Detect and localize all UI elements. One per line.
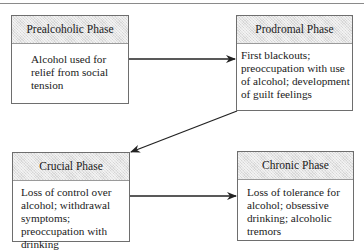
phase-description: First blackouts; preoccupation with use … bbox=[237, 44, 352, 101]
phase-title: Prodromal Phase bbox=[237, 16, 352, 44]
phase-description: Loss of tolerance for alcohol; obsessive… bbox=[238, 180, 353, 238]
phase-description: Loss of control over alcohol; withdrawal… bbox=[13, 181, 129, 250]
phase-title: Crucial Phase bbox=[13, 153, 129, 181]
top-rule bbox=[0, 3, 364, 4]
prealcoholic-phase-box: Prealcoholic Phase Alcohol used for reli… bbox=[11, 15, 129, 104]
arrow-prodromal-to-crucial bbox=[131, 111, 237, 152]
prodromal-phase-box: Prodromal Phase First blackouts; preoccu… bbox=[236, 15, 353, 111]
phase-description: Alcohol used for relief from social tens… bbox=[12, 44, 128, 92]
phase-title: Prealcoholic Phase bbox=[12, 16, 128, 44]
chronic-phase-box: Chronic Phase Loss of tolerance for alco… bbox=[237, 151, 354, 241]
crucial-phase-box: Crucial Phase Loss of control over alcoh… bbox=[12, 152, 130, 242]
phase-title: Chronic Phase bbox=[238, 152, 353, 180]
